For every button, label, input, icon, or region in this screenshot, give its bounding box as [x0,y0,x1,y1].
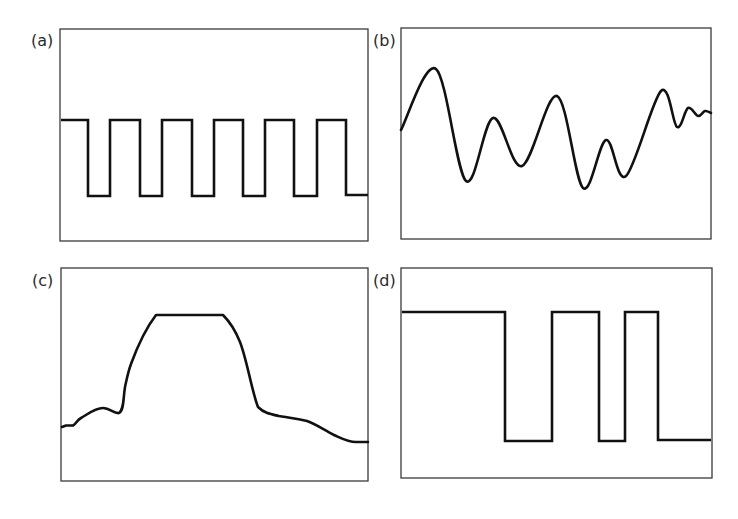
panel-a-label: (a) [31,31,53,50]
panel-c-label: (c) [32,271,53,290]
panel-a: (a) [31,29,368,241]
panel-d-waveform [402,312,711,441]
panel-c-frame [61,268,368,481]
panel-d: (d) [373,268,712,478]
panel-b-frame [401,28,711,239]
panel-b-label: (b) [373,31,396,50]
waveform-figure: (a) (b) (c) (d) [0,0,738,519]
panel-d-label: (d) [373,271,396,290]
panel-c: (c) [32,268,368,481]
panel-a-waveform [61,120,368,196]
panel-b: (b) [373,28,711,239]
panel-c-waveform [62,315,368,442]
panel-b-waveform [401,68,711,189]
panel-d-frame [401,268,712,478]
